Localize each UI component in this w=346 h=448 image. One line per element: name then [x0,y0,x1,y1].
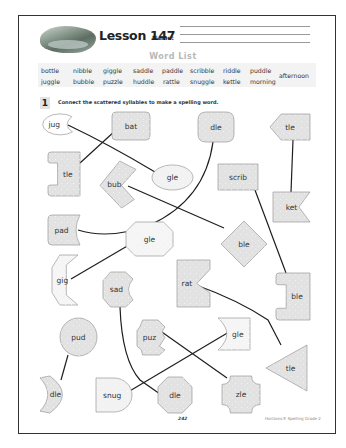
syllable-label: jug [47,120,60,129]
syllable-label: scrib [229,173,247,182]
syllable-label: bub [107,180,122,189]
syllable-sad[interactable]: sad [103,272,133,307]
syllable-dle-3[interactable]: dle [158,377,192,413]
syllable-label: gig [57,276,69,285]
syllable-bat[interactable]: bat [112,112,150,140]
syllable-label: tle [286,364,296,373]
syllable-label: pad [54,226,68,235]
syllable-zle[interactable]: zle [222,376,260,413]
syllable-label: dle [210,123,222,132]
syllable-label: bat [125,122,137,131]
syllable-dle-1[interactable]: dle [198,112,234,142]
syllable-ket[interactable]: ket [273,192,310,222]
syllable-label: gle [167,173,179,182]
syllable-shapes: jugbatdletletlebubglescribketpadgleblegi… [40,112,310,413]
syllable-label: gle [144,235,156,244]
syllable-label: sad [110,285,124,294]
syllable-scrib[interactable]: scrib [218,164,258,190]
syllable-ble-1[interactable]: ble [221,221,267,267]
syllable-label: rat [182,279,193,288]
syllable-gle-1[interactable]: gle [152,165,193,190]
syllable-label: snug [103,391,121,400]
connection-line-tle-1-ket [291,140,293,192]
syllable-pud[interactable]: pud [60,318,97,356]
syllable-pad[interactable]: pad [48,215,80,245]
syllable-gle-2[interactable]: gle [126,222,173,256]
syllable-label: ble [238,240,250,249]
syllable-label: puz [143,333,157,342]
syllable-ble-2[interactable]: ble [276,273,310,320]
syllable-rat[interactable]: rat [177,260,210,307]
syllable-label: zle [236,390,247,399]
syllable-tle-3[interactable]: tle [266,345,307,391]
syllable-gle-3[interactable]: gle [218,318,250,350]
syllable-label: dle [50,390,62,399]
syllable-label: gle [232,330,244,339]
syllable-puz[interactable]: puz [137,320,165,355]
connection-line-pud-dle-2 [61,355,68,380]
syllable-tle-1[interactable]: tle [270,114,310,140]
syllable-board: jugbatdletletlebubglescribketpadgleblegi… [0,0,346,448]
syllable-jug[interactable]: jug [43,114,73,135]
syllable-label: ket [286,203,298,212]
syllable-dle-2[interactable]: dle [40,376,62,413]
syllable-label: pud [71,333,86,342]
syllable-gig[interactable]: gig [52,255,78,305]
syllable-label: ble [291,292,303,301]
footer-brand: Horizons® Spelling Grade 2 [265,416,321,421]
syllable-snug[interactable]: snug [96,378,132,412]
connection-line-dle-1-pad [78,142,213,234]
syllable-bub[interactable]: bub [100,161,136,208]
syllable-label: tle [285,123,295,132]
page-number: 242 [178,416,187,421]
syllable-label: dle [169,391,181,400]
syllable-tle-2[interactable]: tle [48,152,80,196]
syllable-label: tle [63,170,73,179]
